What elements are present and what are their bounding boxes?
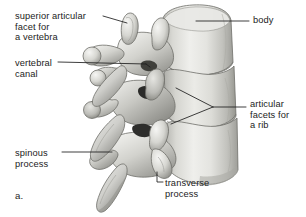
anatomical-figure: superior articularfacet fora vertebra ve… (0, 0, 306, 217)
label-line: process (165, 189, 198, 199)
label-line: body (253, 15, 274, 25)
label-line: transverse (165, 178, 209, 188)
label-spinous-process: spinousprocess (15, 148, 48, 169)
label-vertebral-canal: vertebralcanal (15, 58, 52, 79)
label-line: spinous (15, 148, 48, 158)
label-line: facet for (15, 22, 49, 32)
label-line: superior articular (15, 11, 86, 21)
label-line: a rib (250, 120, 269, 130)
label-line: articular (250, 99, 284, 109)
label-line: a vertebra (15, 32, 58, 42)
label-line: process (15, 159, 48, 169)
label-transverse-process: transverseprocess (165, 178, 209, 199)
label-line: vertebral (15, 58, 52, 68)
label-body: body (253, 15, 274, 26)
label-articular-facets-for-a-rib: articularfacets fora rib (250, 99, 289, 131)
figure-panel-letter: a. (15, 191, 23, 202)
label-superior-articular-facet: superior articularfacet fora vertebra (15, 11, 86, 43)
label-line: facets for (250, 110, 289, 120)
label-line: canal (15, 69, 38, 79)
